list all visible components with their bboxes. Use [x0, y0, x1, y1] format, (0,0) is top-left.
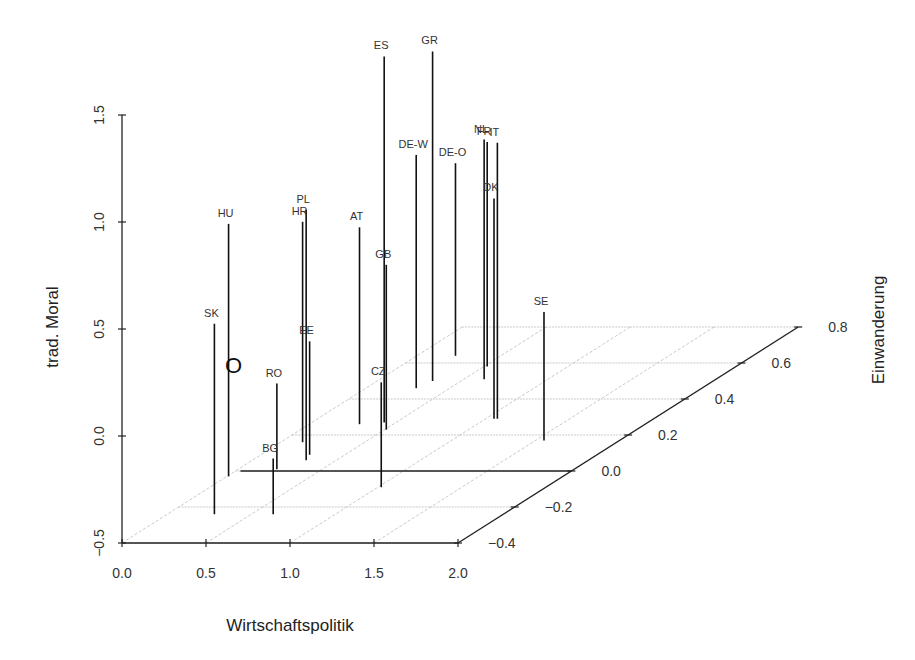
y-tick-label: 0.2: [658, 427, 678, 443]
y-tick-label: 0.8: [828, 319, 848, 335]
z-tick-label: 0.5: [91, 319, 107, 339]
y-tick-label: 0.4: [715, 391, 735, 407]
y-axis-title: Einwanderung: [869, 276, 888, 385]
point-label-hr: HR: [292, 205, 308, 217]
point-label-pl: PL: [296, 193, 309, 205]
x-tick-label: 1.5: [364, 565, 384, 581]
z-tick-label: −0.5: [91, 529, 107, 557]
z-tick-label: 1.5: [91, 105, 107, 125]
scatter3d-plot: 0.00.51.01.52.0−0.4−0.20.00.20.40.60.8−0…: [0, 0, 915, 660]
point-label-sk: SK: [204, 307, 219, 319]
z-tick-label: 0.0: [91, 426, 107, 446]
z-axis-title: trad. Moral: [43, 286, 62, 367]
floor-grid: [122, 327, 798, 543]
y-tick-label: −0.4: [488, 535, 516, 551]
y-tick-label: −0.2: [545, 499, 573, 515]
x-tick-label: 2.0: [448, 565, 468, 581]
tick-labels: 0.00.51.01.52.0−0.4−0.20.00.20.40.60.8−0…: [91, 105, 848, 581]
point-label-ro: RO: [266, 367, 283, 379]
reference-marker: O: [225, 353, 242, 378]
point-label-gb: GB: [375, 248, 391, 260]
x-tick-label: 0.0: [112, 565, 132, 581]
point-label-cz: CZ: [371, 365, 386, 377]
point-label-se: SE: [534, 295, 549, 307]
point-label-de-w: DE-W: [399, 138, 429, 150]
point-label-es: ES: [374, 39, 389, 51]
point-label-hu: HU: [218, 207, 234, 219]
point-label-de-o: DE-O: [439, 146, 467, 158]
grid-line-x: [122, 327, 462, 543]
y-tick-label: 0.0: [601, 463, 621, 479]
x-axis-title: Wirtschaftspolitik: [226, 616, 354, 635]
point-label-ee: EE: [299, 324, 314, 336]
point-label-at: AT: [350, 210, 364, 222]
y-tick-label: 0.6: [772, 355, 792, 371]
point-label-dk: DK: [483, 181, 499, 193]
point-label-gr: GR: [421, 34, 438, 46]
z-tick-label: 1.0: [91, 212, 107, 232]
point-label-it: IT: [489, 126, 499, 138]
point-label-bg: BG: [262, 442, 278, 454]
grid-line-x: [206, 327, 546, 543]
axes: [118, 115, 802, 547]
x-tick-label: 1.0: [280, 565, 300, 581]
x-tick-label: 0.5: [196, 565, 216, 581]
